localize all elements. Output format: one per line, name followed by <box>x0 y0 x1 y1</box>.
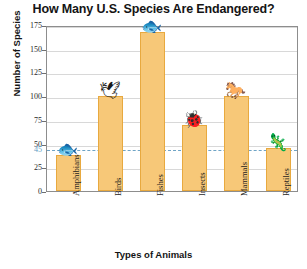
x-tick-label: Birds <box>113 178 123 196</box>
x-tick-label: Amphibians <box>71 154 81 196</box>
x-tick-label: Fishes <box>155 174 165 196</box>
y-tick-label: 150 <box>8 45 42 54</box>
gridline <box>47 98 297 99</box>
gridline <box>47 122 297 123</box>
gridline <box>47 27 297 28</box>
chart-title: How Many U.S. Species Are Endangered? <box>0 2 307 16</box>
x-axis-title: Types of Animals <box>0 249 307 260</box>
threshold-line <box>47 150 297 151</box>
y-tick-label: 100 <box>8 92 42 101</box>
gridline <box>47 74 297 75</box>
gridline <box>47 146 297 147</box>
plot-area: 🐟🕊🐟🐞🐎🦎 <box>46 26 298 192</box>
y-tick-label: 25 <box>8 163 42 172</box>
gridline <box>47 51 297 52</box>
y-tick-label: 75 <box>8 116 42 125</box>
y-tick-label: 125 <box>8 68 42 77</box>
bar-chart: How Many U.S. Species Are Endangered? Nu… <box>0 0 307 269</box>
y-tick-label: 175 <box>8 21 42 30</box>
y-tick-label: 0 <box>8 187 42 196</box>
x-tick-label: Mammals <box>239 162 249 196</box>
y-tick-mark <box>42 192 46 193</box>
x-tick-label: Insects <box>197 172 207 196</box>
gridline <box>47 169 297 170</box>
threshold-label: 45 <box>8 145 42 154</box>
x-tick-label: Reptiles <box>281 168 291 196</box>
bar-fishes <box>140 32 165 191</box>
